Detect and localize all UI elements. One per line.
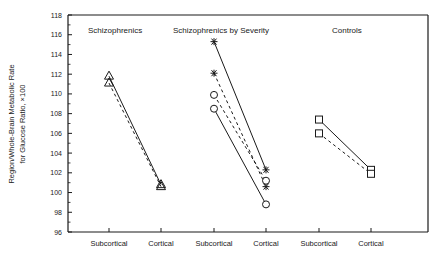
x-tick-label: Subcortical xyxy=(90,239,127,248)
series-triangle-solid xyxy=(105,71,166,187)
y-tick-label: 104 xyxy=(50,150,62,157)
series-star-solid xyxy=(211,38,270,173)
series-square-solid xyxy=(316,116,375,173)
y-tick-label: 106 xyxy=(50,130,62,137)
data-series xyxy=(105,38,375,208)
axes xyxy=(68,15,428,232)
x-tick-label: Subcortical xyxy=(300,239,337,248)
y-axis-label: Region/Whole-Brain Metabolic Rate for Gl… xyxy=(7,64,27,183)
star-marker xyxy=(263,166,270,173)
series-line xyxy=(214,95,266,181)
chart-container: 9698100102104106108110112114116118 Subco… xyxy=(0,0,442,258)
square-marker xyxy=(368,170,375,177)
series-line xyxy=(214,73,266,186)
circle-marker xyxy=(263,201,270,208)
circle-marker xyxy=(263,177,270,184)
y-tick-label: 114 xyxy=(51,51,62,58)
y-tick-label: 100 xyxy=(50,189,62,196)
x-tick-label: Cortical xyxy=(358,239,384,248)
series-line xyxy=(319,120,371,170)
x-axis-ticks: SubcorticalCorticalSubcorticalCorticalSu… xyxy=(90,228,384,248)
square-marker xyxy=(316,116,323,123)
series-square-dashed xyxy=(316,130,375,177)
star-marker xyxy=(211,38,218,45)
y-tick-label: 110 xyxy=(51,90,62,97)
series-triangle-dashed xyxy=(105,78,166,190)
y-tick-label: 102 xyxy=(50,169,62,176)
panel-title: Schizophrenics by Severity xyxy=(173,26,269,35)
panel-title: Schizophrenics xyxy=(88,26,142,35)
series-line xyxy=(214,42,266,170)
panel-title: Controls xyxy=(332,26,362,35)
x-tick-label: Cortical xyxy=(148,239,174,248)
y-tick-label: 96 xyxy=(54,229,62,236)
x-tick-label: Cortical xyxy=(253,239,279,248)
y-axis-label-line2: for Glucose Ratio, ×100 xyxy=(18,84,27,163)
y-axis-label-line1: Region/Whole-Brain Metabolic Rate xyxy=(7,64,16,183)
line-chart: 9698100102104106108110112114116118 Subco… xyxy=(0,0,442,258)
circle-marker xyxy=(211,105,218,112)
y-axis-ticks: 9698100102104106108110112114116118 xyxy=(50,12,72,236)
y-tick-label: 118 xyxy=(51,12,62,19)
series-line xyxy=(109,76,161,184)
series-line xyxy=(214,109,266,205)
y-tick-label: 108 xyxy=(50,110,62,117)
square-marker xyxy=(316,130,323,137)
circle-marker xyxy=(211,91,218,98)
y-tick-label: 112 xyxy=(51,71,62,78)
star-marker xyxy=(211,70,218,77)
y-tick-label: 116 xyxy=(51,31,62,38)
series-line xyxy=(319,133,371,173)
series-line xyxy=(109,83,161,187)
x-tick-label: Subcortical xyxy=(195,239,232,248)
panel-titles: SchizophrenicsSchizophrenics by Severity… xyxy=(88,26,362,35)
y-tick-label: 98 xyxy=(54,209,62,216)
